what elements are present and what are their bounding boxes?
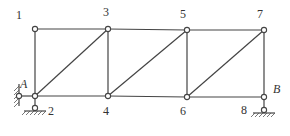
truss-members xyxy=(35,29,264,97)
member-2-3 xyxy=(35,29,108,96)
joint-5 xyxy=(184,27,189,32)
support-label-b: B xyxy=(273,82,281,96)
node-label-7: 7 xyxy=(257,7,263,21)
node-label-6: 6 xyxy=(180,104,186,118)
support-label-a: A xyxy=(19,77,28,91)
truss-joints xyxy=(32,26,266,99)
support-b xyxy=(251,97,275,117)
node-labels: 12345678 xyxy=(16,5,263,118)
node-label-2: 2 xyxy=(48,104,54,118)
joint-8 xyxy=(261,94,266,99)
joint-6 xyxy=(184,94,189,99)
joint-4 xyxy=(105,93,110,98)
node-label-5: 5 xyxy=(180,7,186,21)
joint-3 xyxy=(105,26,110,31)
member-4-5 xyxy=(108,30,187,96)
joint-1 xyxy=(32,26,37,31)
member-4-6 xyxy=(108,96,187,97)
joint-2 xyxy=(32,93,37,98)
node-label-1: 1 xyxy=(16,8,22,22)
node-label-4: 4 xyxy=(103,104,109,118)
node-label-3: 3 xyxy=(103,5,109,19)
member-6-7 xyxy=(187,30,264,97)
truss-diagram: 12345678 A B xyxy=(0,0,290,136)
joint-7 xyxy=(261,27,266,32)
member-3-5 xyxy=(108,29,187,30)
node-label-8: 8 xyxy=(241,103,247,117)
